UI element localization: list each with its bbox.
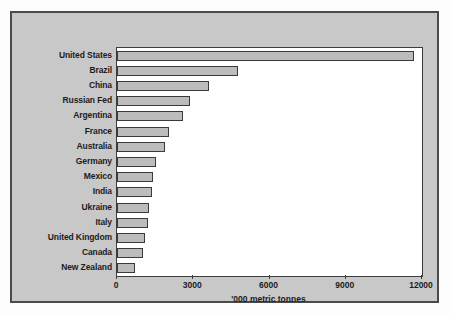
bar: [117, 172, 153, 182]
axis-tick-label: 3000: [183, 280, 202, 290]
category-label: Australia: [24, 141, 112, 151]
bar: [117, 203, 149, 213]
category-label: Brazil: [24, 65, 112, 75]
category-label: New Zealand: [24, 262, 112, 272]
bar: [117, 81, 209, 91]
bar: [117, 111, 183, 121]
chart-panel: United StatesBrazilChinaRussian FedArgen…: [10, 11, 439, 303]
axis-tick: [116, 275, 117, 279]
category-axis-labels: United StatesBrazilChinaRussian FedArgen…: [24, 47, 112, 275]
category-label: Argentina: [24, 110, 112, 120]
axis-tick-label: 6000: [259, 280, 278, 290]
bar: [117, 96, 190, 106]
axis-tick: [192, 275, 193, 279]
category-label: Germany: [24, 156, 112, 166]
bar: [117, 157, 156, 167]
bar: [117, 263, 135, 273]
axis-tick: [345, 275, 346, 279]
value-axis-title: '000 metric tonnes: [116, 294, 421, 304]
category-label: Italy: [24, 217, 112, 227]
category-label: Mexico: [24, 171, 112, 181]
bar-series: [117, 48, 422, 276]
bar: [117, 127, 169, 137]
axis-tick-label: 9000: [335, 280, 354, 290]
bar: [117, 248, 143, 258]
category-label: Ukraine: [24, 202, 112, 212]
bar: [117, 187, 152, 197]
bar: [117, 66, 238, 76]
axis-tick: [269, 275, 270, 279]
category-label: India: [24, 186, 112, 196]
bar: [117, 142, 165, 152]
category-label: Russian Fed: [24, 95, 112, 105]
category-label: France: [24, 126, 112, 136]
category-label: United States: [24, 50, 112, 60]
chart-figure: United StatesBrazilChinaRussian FedArgen…: [0, 0, 451, 316]
category-label: United Kingdom: [24, 232, 112, 242]
category-label: China: [24, 80, 112, 90]
category-label: Canada: [24, 247, 112, 257]
bar: [117, 218, 148, 228]
bar: [117, 233, 145, 243]
axis-tick: [421, 275, 422, 279]
bar: [117, 51, 414, 61]
axis-tick-label: 0: [114, 280, 119, 290]
axis-tick-label: 12000: [409, 280, 433, 290]
